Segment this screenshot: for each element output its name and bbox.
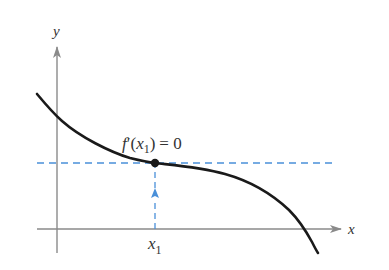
x1-tick-label: x1 (147, 234, 162, 257)
svg-text:x1: x1 (147, 234, 162, 257)
derivative-zero-diagram: y x f′(x1)= 0 x1 (0, 0, 389, 270)
x-axis-label: x (347, 221, 355, 237)
y-axis-label: y (51, 23, 60, 39)
svg-text:f′(x1)= 0: f′(x1)= 0 (122, 134, 182, 156)
up-arrow-icon (151, 188, 159, 198)
critical-point (151, 159, 159, 167)
vertical-guide (151, 164, 159, 229)
derivative-label: f′(x1)= 0 (122, 134, 182, 156)
